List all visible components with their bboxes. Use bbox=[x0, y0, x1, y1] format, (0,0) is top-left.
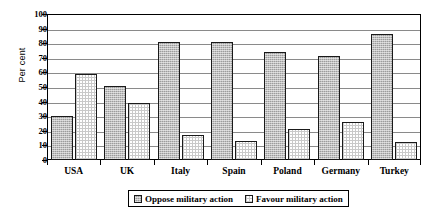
y-tick-label: 20 bbox=[7, 127, 47, 135]
y-tick-label: 90 bbox=[7, 25, 47, 33]
bar-group bbox=[368, 14, 421, 160]
y-tick-label: 100 bbox=[7, 10, 47, 18]
x-tick-mark bbox=[368, 160, 369, 165]
bar-poland-favour bbox=[288, 129, 310, 160]
bar-turkey-oppose bbox=[371, 34, 393, 160]
bar-poland-oppose bbox=[264, 52, 286, 160]
y-tick-label: 30 bbox=[7, 112, 47, 120]
x-axis-label-germany: Germany bbox=[314, 166, 367, 176]
legend-item: Oppose military action bbox=[134, 194, 233, 204]
x-tick-mark bbox=[420, 160, 421, 165]
bar-spain-favour bbox=[235, 141, 257, 160]
y-tick-label: 60 bbox=[7, 68, 47, 76]
legend-swatch-favour-icon bbox=[245, 195, 253, 203]
x-axis-ticks bbox=[47, 160, 421, 165]
x-axis-label-usa: USA bbox=[47, 166, 100, 176]
legend-swatch-oppose-icon bbox=[134, 195, 142, 203]
bars-layer bbox=[47, 14, 421, 160]
bar-germany-favour bbox=[342, 122, 364, 160]
x-axis-labels: USAUKItalySpainPolandGermanyTurkey bbox=[47, 166, 421, 180]
y-tick-label: 80 bbox=[7, 39, 47, 47]
bar-turkey-favour bbox=[395, 142, 417, 160]
x-tick-mark bbox=[261, 160, 262, 165]
bar-italy-favour bbox=[182, 135, 204, 160]
bar-usa-oppose bbox=[51, 116, 73, 160]
bar-uk-favour bbox=[128, 103, 150, 160]
bar-group bbox=[47, 14, 100, 160]
bar-chart: Per cent 1009080706050403020100 USAUKIta… bbox=[0, 0, 442, 222]
x-tick-mark bbox=[100, 160, 101, 165]
y-tick-label: 70 bbox=[7, 54, 47, 62]
x-tick-mark bbox=[314, 160, 315, 165]
legend-label-oppose: Oppose military action bbox=[145, 194, 233, 204]
bar-group bbox=[261, 14, 314, 160]
x-axis-label-uk: UK bbox=[100, 166, 153, 176]
legend-item: Favour military action bbox=[245, 194, 343, 204]
x-axis-label-italy: Italy bbox=[154, 166, 207, 176]
bar-germany-oppose bbox=[318, 56, 340, 160]
bar-group bbox=[154, 14, 207, 160]
bar-group bbox=[207, 14, 260, 160]
y-tick-label: 40 bbox=[7, 98, 47, 106]
bar-uk-oppose bbox=[104, 86, 126, 160]
x-axis-label-poland: Poland bbox=[261, 166, 314, 176]
chart-legend: Oppose military action Favour military a… bbox=[128, 190, 349, 207]
bar-usa-favour bbox=[75, 74, 97, 160]
bar-group bbox=[314, 14, 367, 160]
bar-group bbox=[100, 14, 153, 160]
x-tick-mark bbox=[154, 160, 155, 165]
x-axis-label-spain: Spain bbox=[207, 166, 260, 176]
x-tick-mark bbox=[207, 160, 208, 165]
y-axis-ticks: 1009080706050403020100 bbox=[0, 14, 47, 160]
bar-italy-oppose bbox=[158, 42, 180, 160]
bar-spain-oppose bbox=[211, 42, 233, 160]
y-tick-label: 10 bbox=[7, 141, 47, 149]
legend-label-favour: Favour military action bbox=[256, 194, 343, 204]
x-tick-mark bbox=[47, 160, 48, 165]
y-tick-label: 0 bbox=[7, 156, 47, 164]
x-axis-label-turkey: Turkey bbox=[368, 166, 421, 176]
y-tick-label: 50 bbox=[7, 83, 47, 91]
